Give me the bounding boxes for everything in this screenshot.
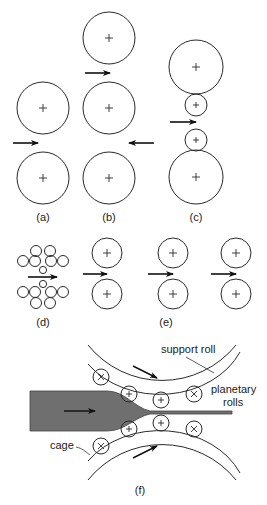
roll-middle (83, 82, 135, 134)
cluster-rolls-bottom (18, 280, 69, 308)
panel-f-planetary: support roll planetary rolls cage (f) (30, 343, 257, 496)
roll-bottom (17, 152, 69, 204)
backup-roll-bottom (169, 150, 223, 204)
lower-cage-arc (88, 431, 240, 473)
roll-top (17, 82, 69, 134)
cage-label: cage (50, 439, 74, 451)
lower-support-roll (88, 445, 236, 480)
roll-bottom (83, 152, 135, 204)
stand-2 (148, 238, 188, 309)
planetary-rolls-label-line1: planetary (211, 383, 257, 395)
panel-label-e: (e) (159, 316, 172, 328)
planetary-rolls-label-line2: rolls (223, 396, 244, 408)
panel-c-four-high: (c) (169, 40, 223, 223)
panel-d-cluster: (d) (18, 246, 69, 329)
cage-leader (76, 447, 90, 455)
stand-1 (83, 238, 122, 309)
panel-label-c: (c) (190, 211, 203, 223)
panel-label-f: (f) (135, 484, 145, 496)
work-roll-bottom (185, 129, 207, 151)
work-roll-top (185, 94, 207, 116)
panel-e-tandem: (e) (83, 238, 251, 328)
cluster-rolls-top (18, 246, 69, 274)
panel-label-d: (d) (36, 316, 49, 328)
panel-label-b: (b) (102, 211, 115, 223)
support-roll-leader (186, 357, 214, 373)
upper-rotation-arrow-icon (133, 366, 157, 378)
panel-b-three-high: (b) (83, 12, 154, 223)
roll-top (83, 12, 135, 64)
stand-3 (211, 238, 251, 309)
panel-a-two-high: (a) (13, 82, 69, 223)
panel-label-a: (a) (36, 211, 49, 223)
support-roll-label: support roll (161, 343, 215, 355)
backup-roll-top (169, 40, 223, 94)
rolling-mill-diagram: (a) (b) (0, 0, 267, 505)
